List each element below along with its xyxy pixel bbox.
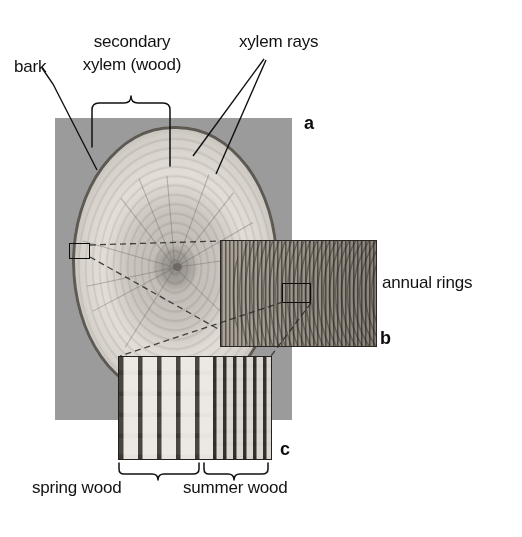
panel-letter-c: c: [280, 440, 290, 458]
label-secondary-xylem-line1: secondary: [62, 31, 202, 52]
label-spring-wood: spring wood: [32, 477, 121, 498]
summer-wood-cells: [213, 357, 271, 459]
label-annual-rings: annual rings: [382, 272, 472, 293]
panel-letter-a: a: [304, 114, 314, 132]
figure-container: bark secondary xylem (wood) xylem rays a…: [0, 0, 522, 537]
panel-c-image: [118, 356, 272, 460]
label-secondary-xylem-line2: xylem (wood): [62, 54, 202, 75]
label-bark: bark: [14, 56, 46, 77]
label-summer-wood: summer wood: [183, 477, 288, 498]
spring-wood-cells: [119, 357, 213, 459]
callout-box-panel-a: [69, 243, 90, 259]
callout-box-panel-b: [282, 283, 311, 303]
panel-letter-b: b: [380, 329, 391, 347]
label-xylem-rays: xylem rays: [239, 31, 318, 52]
